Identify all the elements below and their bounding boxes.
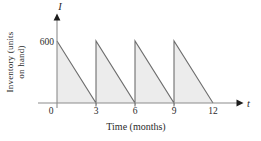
x-axis-symbol: t: [247, 98, 251, 109]
x-tick-labels: 036912: [49, 106, 218, 116]
series-layer: [57, 41, 213, 107]
x-tick-label: 6: [133, 106, 138, 116]
y-axis-symbol: I: [57, 1, 62, 12]
y-axis-title-line2: on hand): [16, 45, 26, 78]
y-axis-title-line1: Inventory (units: [5, 31, 15, 92]
inventory-sawtooth-figure: I t 600 036912 Time (months) Inventory (…: [0, 0, 261, 141]
x-tick-label: 0: [49, 106, 54, 116]
x-axis-arrowhead-icon: [237, 100, 244, 107]
y-tick-label-600: 600: [40, 37, 55, 47]
x-tick-label: 3: [94, 106, 99, 116]
labels-layer: I t 600 036912 Time (months) Inventory (…: [5, 1, 251, 133]
x-tick-label: 9: [172, 106, 177, 116]
x-axis-title: Time (months): [106, 121, 165, 133]
x-tick-label: 12: [208, 106, 218, 116]
y-axis-arrowhead-icon: [54, 14, 61, 21]
inventory-chart: I t 600 036912 Time (months) Inventory (…: [0, 0, 261, 141]
